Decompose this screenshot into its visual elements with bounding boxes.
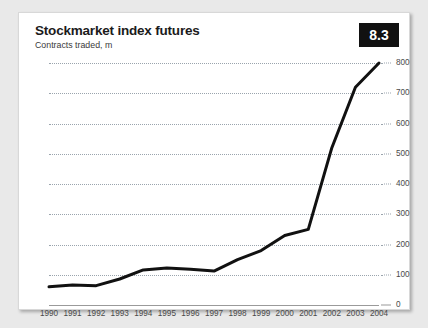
x-tick-label-2000: 2000 <box>276 309 294 318</box>
x-tick-label-2001: 2001 <box>299 309 317 318</box>
figure-number-badge: 8.3 <box>359 23 399 47</box>
chart-card: Stockmarket index futures Contracts trad… <box>18 12 410 310</box>
y-tick-label-200: 200 <box>396 241 410 249</box>
x-tick-label-2003: 2003 <box>346 309 364 318</box>
y-tick-dash-300 <box>381 214 391 215</box>
y-tick-label-400: 400 <box>396 180 410 188</box>
y-tick-dash-600 <box>381 123 391 124</box>
y-tick-label-100: 100 <box>396 271 410 279</box>
x-tick-label-1990: 1990 <box>40 309 58 318</box>
x-tick-label-1994: 1994 <box>134 309 152 318</box>
y-tick-dash-700 <box>381 93 391 94</box>
x-tick-label-2004: 2004 <box>370 309 388 318</box>
y-tick-label-0: 0 <box>396 301 401 309</box>
axis-baseline <box>49 305 379 306</box>
page-title: Stockmarket index futures <box>35 23 399 38</box>
y-tick-label-700: 700 <box>396 89 410 97</box>
x-tick-label-1993: 1993 <box>111 309 129 318</box>
y-tick-label-800: 800 <box>396 59 410 67</box>
x-axis-labels: 1990199119921993199419951996199719981999… <box>49 309 389 323</box>
chart-header: Stockmarket index futures Contracts trad… <box>35 23 399 50</box>
chart-subtitle: Contracts traded, m <box>35 40 399 50</box>
y-tick-label-500: 500 <box>396 150 410 158</box>
y-tick-dash-100 <box>381 274 391 275</box>
x-tick-label-2002: 2002 <box>323 309 341 318</box>
x-tick-label-1997: 1997 <box>205 309 223 318</box>
y-tick-label-600: 600 <box>396 120 410 128</box>
x-tick-label-1998: 1998 <box>228 309 246 318</box>
x-tick-label-1995: 1995 <box>158 309 176 318</box>
series-line-contracts-traded <box>49 63 379 305</box>
y-tick-dash-200 <box>381 244 391 245</box>
y-tick-dash-400 <box>381 184 391 185</box>
x-tick-label-1991: 1991 <box>63 309 81 318</box>
plot-area <box>49 63 379 305</box>
x-tick-label-1992: 1992 <box>87 309 105 318</box>
y-tick-label-300: 300 <box>396 210 410 218</box>
y-axis-labels: 0100200300400500600700800 <box>381 63 421 305</box>
figure-number-label: 8.3 <box>369 28 388 42</box>
y-tick-dash-500 <box>381 153 391 154</box>
x-tick-label-1996: 1996 <box>181 309 199 318</box>
screenshot-root: Stockmarket index futures Contracts trad… <box>0 0 428 328</box>
x-tick-label-1999: 1999 <box>252 309 270 318</box>
y-tick-dash-800 <box>381 63 391 64</box>
y-tick-dash-0 <box>381 305 391 306</box>
